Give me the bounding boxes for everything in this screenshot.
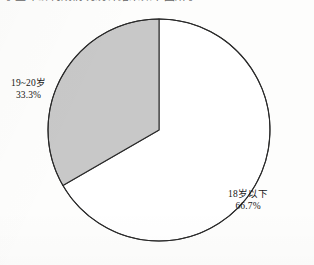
pie-label-19-to-20: 19~20岁 33.3% xyxy=(11,78,46,101)
pie-chart-figure: 学生年龄构成情况统计结果如下图所示 19~20岁 33.3% 18岁以下 66.… xyxy=(0,0,314,265)
pie-label-19-to-20-percent: 33.3% xyxy=(11,90,46,102)
pie-graphic xyxy=(0,0,314,265)
pie-label-18-and-under-percent: 66.7% xyxy=(228,201,268,213)
pie-label-18-and-under-name: 18岁以下 xyxy=(228,189,268,201)
cropped-heading-text: 学生年龄构成情况统计结果如下图所示 xyxy=(4,0,254,4)
cropped-heading-label: 学生年龄构成情况统计结果如下图所示 xyxy=(4,0,254,3)
pie-label-18-and-under: 18岁以下 66.7% xyxy=(228,189,268,212)
pie-label-19-to-20-name: 19~20岁 xyxy=(11,78,46,90)
